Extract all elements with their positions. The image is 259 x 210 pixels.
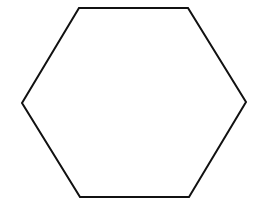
diagram-canvas (0, 0, 259, 210)
hexagon-shape (22, 8, 246, 197)
hexagon-figure (0, 0, 259, 210)
